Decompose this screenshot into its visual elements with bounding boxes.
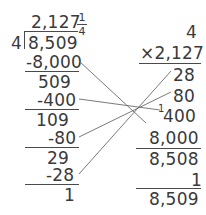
- partial-product-3: 400: [163, 108, 196, 125]
- division-step-4-subtract: -28: [46, 167, 74, 184]
- divisor: 4: [11, 35, 22, 52]
- division-step-2-remainder: 109: [36, 112, 69, 129]
- multiplication-total: 8,509: [149, 191, 199, 208]
- division-bracket-bar: [24, 31, 25, 49]
- division-vinculum: [24, 31, 78, 32]
- multiplication-rule: [139, 63, 201, 64]
- division-step-1-remainder: 509: [38, 74, 71, 91]
- fraction-numerator: 1: [77, 12, 87, 23]
- partial-product-1: 28: [173, 67, 195, 84]
- multiplication-product: 8,508: [149, 151, 199, 168]
- quotient-whole: 2,127: [31, 14, 81, 31]
- partial-product-4: 8,000: [149, 130, 199, 147]
- partial-product-2: 80: [173, 88, 195, 105]
- division-step-3-subtract: -80: [48, 130, 76, 147]
- multiplication-multiplicand: 4: [186, 24, 197, 41]
- quotient-fraction: 1 4: [77, 12, 87, 37]
- long-division-worksheet: 2,127 1 4 4 8,509 -8,000 509 -400 109 -8…: [0, 0, 206, 215]
- added-remainder: 1: [191, 172, 202, 189]
- multiplication-multiplier: ×2,127: [140, 45, 204, 62]
- division-step-1-subtract: -8,000: [26, 54, 82, 71]
- dividend: 8,509: [28, 35, 78, 52]
- connector-400: [79, 99, 160, 110]
- fraction-denominator: 4: [77, 26, 87, 37]
- division-final-remainder: 1: [64, 187, 75, 204]
- connector-8000: [79, 61, 146, 123]
- division-step-2-subtract: -400: [37, 92, 76, 109]
